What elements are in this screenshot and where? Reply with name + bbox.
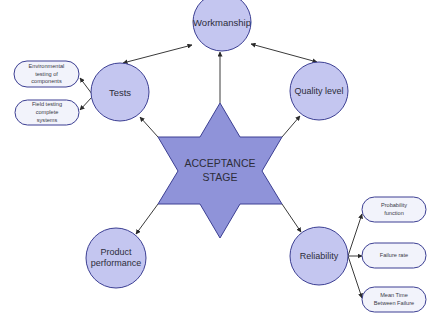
arrow-star-tests xyxy=(140,117,158,137)
reliability-label: Reliability xyxy=(300,251,339,261)
star-label-line2: STAGE xyxy=(203,171,238,183)
pill-label-line2: complete xyxy=(36,109,59,115)
arrow-reliability-mtbf xyxy=(348,256,362,298)
workmanship-label: Workmanship xyxy=(193,17,251,28)
arrow-tests-field xyxy=(80,97,92,110)
node-quality-level[interactable]: Quality level xyxy=(290,62,348,120)
pill-field-testing[interactable]: Field testing complete systems xyxy=(15,100,79,125)
pill-label-line2: testing of xyxy=(35,71,58,77)
star-label-line1: ACCEPTANCE xyxy=(185,157,256,169)
pill-label-line1: Environmental xyxy=(29,63,65,69)
pill-label-line1: Failure rate xyxy=(380,252,408,258)
pill-environmental-testing[interactable]: Environmental testing of components xyxy=(14,61,79,87)
arrow-star-quality xyxy=(282,116,300,137)
node-tests[interactable]: Tests xyxy=(91,63,149,121)
pill-failure-rate[interactable]: Failure rate xyxy=(362,243,426,268)
pill-label-line3: systems xyxy=(37,117,58,123)
pill-label-line1: Mean Time xyxy=(380,292,408,298)
acceptance-stage-star[interactable]: ACCEPTANCE STAGE xyxy=(158,103,282,238)
acceptance-stage-diagram: ACCEPTANCE STAGE Workmanship Tests Quali… xyxy=(0,0,441,329)
arrow-star-product xyxy=(136,204,158,234)
node-product-performance[interactable]: Product performance xyxy=(86,228,146,288)
pill-probability-function[interactable]: Probability function xyxy=(362,197,426,222)
arrow-star-reliability xyxy=(282,204,301,232)
tests-label: Tests xyxy=(109,87,131,98)
arrow-tests-workmanship xyxy=(123,45,192,63)
arrow-workmanship-quality xyxy=(251,44,317,62)
node-reliability[interactable]: Reliability xyxy=(290,227,348,285)
product-performance-label-line2: performance xyxy=(91,258,142,268)
pill-label-line2: Between Failure xyxy=(374,300,414,306)
pill-label-line1: Probability xyxy=(381,202,407,208)
arrow-reliability-probability xyxy=(348,214,362,256)
pill-label-line1: Field testing xyxy=(32,101,62,107)
pill-label-line3: components xyxy=(31,78,62,84)
pill-label-line2: function xyxy=(384,210,404,216)
pill-mean-time-between-failure[interactable]: Mean Time Between Failure xyxy=(362,287,426,312)
arrow-tests-environmental xyxy=(80,78,92,94)
node-workmanship[interactable]: Workmanship xyxy=(193,0,251,51)
product-performance-label-line1: Product xyxy=(100,247,132,257)
quality-level-label: Quality level xyxy=(294,86,343,96)
